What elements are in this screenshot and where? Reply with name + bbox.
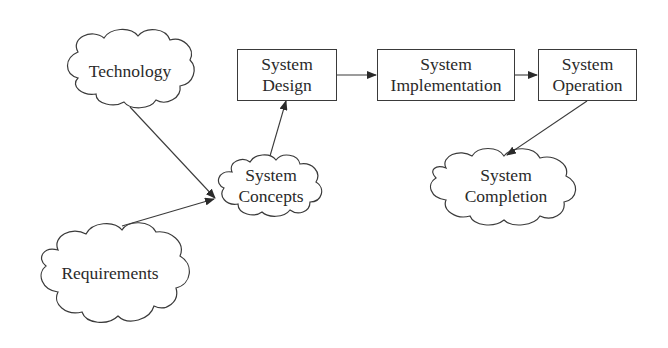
system-design-box: System Design bbox=[237, 49, 337, 101]
requirements-node: Requirements bbox=[40, 258, 180, 288]
system-completion-label-line1: System bbox=[480, 165, 532, 186]
system-concepts-label-line1: System bbox=[245, 165, 297, 186]
system-implementation-label-line1: System bbox=[420, 54, 472, 75]
system-operation-label-line2: Operation bbox=[553, 75, 623, 96]
edge-requirements-to-concepts bbox=[122, 199, 214, 226]
system-operation-label-line1: System bbox=[562, 54, 614, 75]
edge-concepts-to-design bbox=[270, 101, 286, 156]
system-completion-label-line2: Completion bbox=[465, 186, 548, 207]
edge-operation-to-completion bbox=[507, 101, 587, 155]
system-concepts-node: System Concepts bbox=[224, 164, 318, 208]
technology-label: Technology bbox=[89, 61, 171, 82]
system-design-label-line2: Design bbox=[262, 75, 312, 96]
system-completion-node: System Completion bbox=[446, 164, 566, 208]
system-design-label-line1: System bbox=[261, 54, 313, 75]
system-implementation-label-line2: Implementation bbox=[391, 75, 502, 96]
edge-technology-to-concepts bbox=[130, 107, 215, 198]
system-implementation-box: System Implementation bbox=[377, 49, 515, 101]
system-concepts-label-line2: Concepts bbox=[238, 186, 303, 207]
requirements-label: Requirements bbox=[61, 263, 158, 284]
system-operation-box: System Operation bbox=[538, 49, 637, 101]
technology-node: Technology bbox=[70, 56, 190, 86]
